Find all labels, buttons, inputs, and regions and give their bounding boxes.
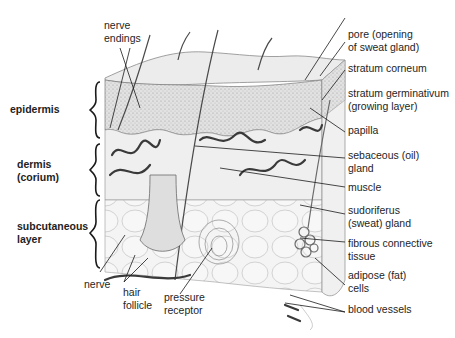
label-fibrous-connective-tissue: fibrous connective tissue (348, 237, 433, 262)
label-pore: pore (opening of sweat gland) (348, 28, 419, 53)
dermis-brace (90, 144, 100, 196)
label-stratum-corneum: stratum corneum (348, 62, 427, 75)
label-hair-follicle: hair follicle (123, 286, 152, 311)
label-sebaceous-gland: sebaceous (oil) gland (348, 149, 419, 174)
label-dermis: dermis (corium) (17, 158, 59, 184)
epidermis-brace (90, 82, 100, 138)
epidermis-region (105, 80, 322, 136)
skin-surface (105, 52, 345, 85)
subcutaneous-region (105, 200, 322, 292)
label-blood-vessels: blood vessels (348, 303, 412, 316)
label-subcutaneous-layer: subcutaneous layer (17, 220, 88, 246)
layer-braces (90, 82, 100, 268)
label-nerve: nerve (84, 278, 110, 291)
subcutaneous-brace (90, 200, 100, 268)
label-papilla: papilla (348, 124, 378, 137)
label-stratum-germinativum: stratum germinativum (growing layer) (348, 87, 449, 112)
label-adipose-cells: adipose (fat) cells (348, 269, 406, 294)
label-pressure-receptor: pressure receptor (164, 291, 205, 316)
label-muscle: muscle (348, 181, 381, 194)
skin-diagram: epidermis dermis (corium) subcutaneous l… (0, 0, 455, 338)
label-epidermis: epidermis (10, 103, 60, 116)
label-nerve-endings: nerve endings (104, 19, 141, 44)
label-sudoriferus-gland: sudoriferus (sweat) gland (348, 204, 411, 229)
